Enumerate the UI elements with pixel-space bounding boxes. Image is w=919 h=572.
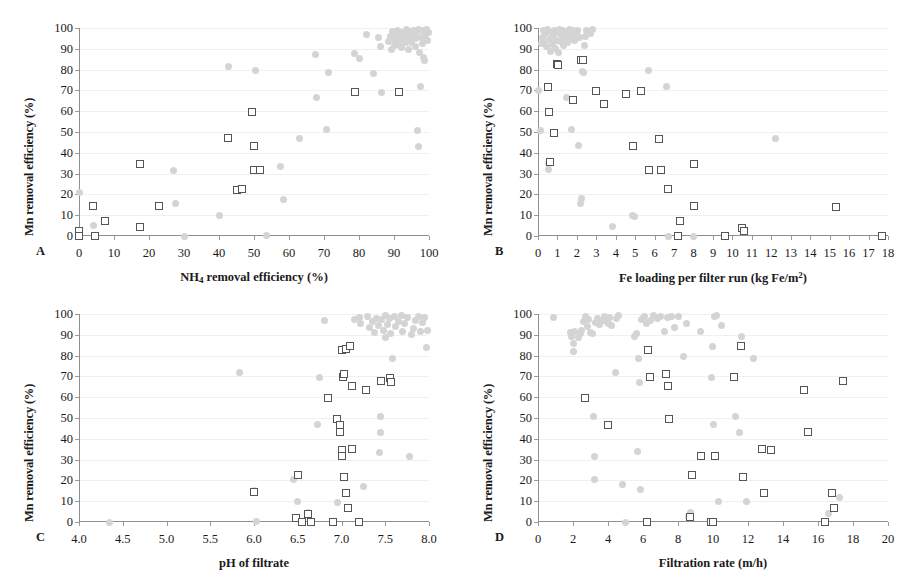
- y-axis-tick-label: 90: [37, 41, 73, 56]
- data-point-circle: [589, 330, 596, 337]
- data-point-square: [355, 518, 363, 526]
- scatter-figure-grid: Mn removal efficiency (%) A NH4 removal …: [0, 0, 919, 572]
- gridline: [538, 70, 888, 71]
- data-point-circle: [423, 344, 430, 351]
- data-point-circle: [619, 481, 626, 488]
- data-point-square: [351, 88, 359, 96]
- data-point-circle: [580, 69, 587, 76]
- data-point-circle: [535, 87, 542, 94]
- x-axis-tick-label: 7: [671, 246, 677, 261]
- data-point-circle: [356, 55, 363, 62]
- data-point-square: [307, 518, 315, 526]
- x-axis-tick-label: 6.5: [290, 532, 306, 547]
- data-point-circle: [424, 37, 431, 44]
- x-axis-tick-label: 8: [690, 246, 696, 261]
- data-point-square: [362, 386, 370, 394]
- x-axis-tick-label: 0: [76, 246, 82, 261]
- data-point-circle: [690, 233, 697, 240]
- data-point-circle: [106, 519, 113, 526]
- data-point-square: [101, 217, 109, 225]
- x-axis-tick: [557, 236, 558, 240]
- gridline: [79, 480, 429, 481]
- x-axis-tick-label: 16: [843, 246, 856, 261]
- data-point-circle: [612, 369, 619, 376]
- data-point-circle: [750, 355, 757, 362]
- x-axis-tick-label: 7.0: [334, 532, 350, 547]
- x-axis-tick-label: 6: [640, 532, 646, 547]
- x-axis-tick: [791, 236, 792, 240]
- data-point-square: [839, 377, 847, 385]
- y-axis-tick-label: 20: [496, 187, 532, 202]
- y-axis-tick-label: 50: [496, 411, 532, 426]
- data-point-square: [709, 518, 717, 526]
- x-axis-tick: [616, 236, 617, 240]
- y-axis-tick-label: 90: [496, 327, 532, 342]
- data-point-circle: [631, 213, 638, 220]
- data-point-square: [340, 370, 348, 378]
- data-point-circle: [375, 34, 382, 41]
- gridline: [79, 501, 429, 502]
- data-point-circle: [363, 31, 370, 38]
- data-point-circle: [665, 233, 672, 240]
- data-point-circle: [321, 317, 328, 324]
- x-axis-tick-label: 13: [785, 246, 798, 261]
- panel-c-letter: C: [36, 530, 45, 545]
- x-axis-tick: [655, 236, 656, 240]
- data-point-square: [646, 373, 654, 381]
- data-point-square: [686, 513, 694, 521]
- data-point-circle: [277, 163, 284, 170]
- gridline: [538, 111, 888, 112]
- data-point-circle: [325, 69, 332, 76]
- data-point-circle: [590, 413, 597, 420]
- x-axis-tick: [79, 522, 80, 526]
- panel-b-letter: B: [495, 244, 503, 259]
- x-axis-tick: [869, 236, 870, 240]
- data-point-square: [342, 489, 350, 497]
- data-point-circle: [376, 449, 383, 456]
- x-axis-tick: [254, 236, 255, 240]
- y-axis-tick-label: 10: [37, 208, 73, 223]
- data-point-circle: [377, 43, 384, 50]
- gridline: [538, 90, 888, 91]
- x-axis-tick-label: 10: [707, 532, 720, 547]
- data-point-square: [721, 232, 729, 240]
- data-point-circle: [609, 223, 616, 230]
- data-point-circle: [622, 519, 629, 526]
- data-point-circle: [585, 316, 592, 323]
- x-axis-tick-label: 20: [882, 532, 895, 547]
- data-point-square: [688, 471, 696, 479]
- x-axis-tick-label: 16: [812, 532, 825, 547]
- y-axis-tick-label: 30: [496, 166, 532, 181]
- data-point-circle: [172, 200, 179, 207]
- x-axis-tick: [385, 522, 386, 526]
- data-point-circle: [401, 320, 408, 327]
- x-axis-tick-label: 4: [605, 532, 611, 547]
- x-axis-tick: [748, 522, 749, 526]
- data-point-circle: [709, 343, 716, 350]
- x-axis-tick: [123, 522, 124, 526]
- y-axis-tick-label: 70: [37, 369, 73, 384]
- data-point-circle: [574, 27, 581, 34]
- data-point-circle: [280, 196, 287, 203]
- data-point-circle: [545, 166, 552, 173]
- data-point-circle: [608, 322, 615, 329]
- data-point-circle: [555, 49, 562, 56]
- data-point-circle: [663, 83, 670, 90]
- data-point-square: [644, 346, 652, 354]
- x-axis-tick: [678, 522, 679, 526]
- data-point-square: [828, 489, 836, 497]
- data-point-circle: [591, 453, 598, 460]
- gridline: [538, 174, 888, 175]
- y-axis-tick-label: 70: [496, 83, 532, 98]
- panel-b-x-title-pre: Fe loading per filter run (kg Fe/m: [619, 271, 798, 285]
- x-axis-tick-label: 4: [613, 246, 619, 261]
- y-axis-tick-label: 20: [37, 473, 73, 488]
- x-axis-tick-label: 2: [570, 532, 576, 547]
- data-point-circle: [415, 143, 422, 150]
- data-point-square: [136, 223, 144, 231]
- data-point-circle: [404, 314, 411, 321]
- data-point-circle: [710, 421, 717, 428]
- data-point-square: [758, 445, 766, 453]
- data-point-circle: [377, 429, 384, 436]
- data-point-square: [91, 232, 99, 240]
